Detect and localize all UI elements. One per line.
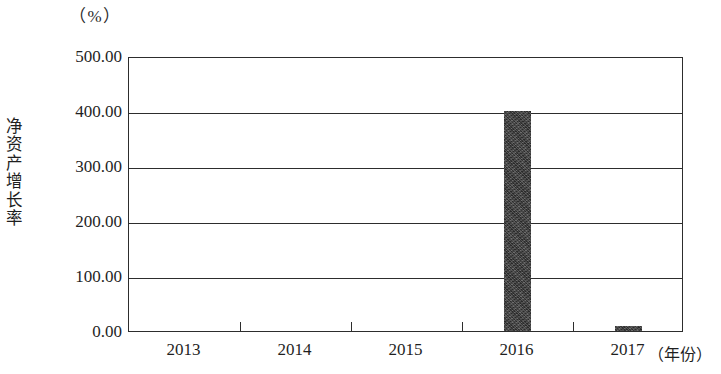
gridline (129, 168, 682, 169)
x-axis-tick-label: 2014 (278, 340, 312, 360)
y-axis-tick-label-group: 0.00100.00200.00300.00400.00500.00 (0, 57, 128, 332)
bar-2016 (504, 111, 531, 331)
x-axis-tick-mark (573, 322, 574, 331)
x-axis-tick-mark (240, 322, 241, 331)
plot-area (128, 57, 683, 332)
gridline (129, 223, 682, 224)
net-asset-growth-rate-bar-chart: （%） 净资产增长率 0.00100.00200.00300.00400.005… (0, 0, 721, 374)
y-axis-tick-label: 400.00 (10, 102, 128, 122)
x-axis-unit-label: （年份） (648, 341, 712, 365)
x-axis-tick-label: 2015 (389, 340, 423, 360)
gridline (129, 278, 682, 279)
y-axis-tick-label: 100.00 (10, 267, 128, 287)
y-axis-unit-label: （%） (52, 2, 138, 27)
x-axis-tick-label-group: 20132014201520162017 (128, 340, 683, 370)
x-axis-tick-mark (462, 322, 463, 331)
x-axis-tick-label: 2017 (611, 340, 645, 360)
gridline (129, 113, 682, 114)
bar-2017 (615, 326, 642, 332)
x-axis-tick-mark (351, 322, 352, 331)
y-axis-tick-label: 0.00 (10, 322, 128, 342)
x-axis-tick-label: 2016 (500, 340, 534, 360)
y-axis-tick-label: 300.00 (10, 157, 128, 177)
y-axis-tick-label: 500.00 (10, 47, 128, 67)
y-axis-tick-label: 200.00 (10, 212, 128, 232)
x-axis-tick-label: 2013 (167, 340, 201, 360)
